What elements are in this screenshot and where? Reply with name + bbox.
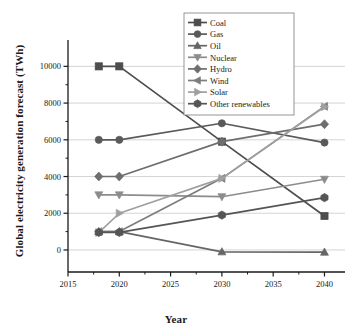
x-tick-label: 2020 — [111, 279, 128, 289]
legend-item-label: Other renewables — [210, 99, 270, 109]
data-point-marker — [218, 211, 225, 219]
y-tick-label: 10000 — [40, 61, 61, 71]
x-tick-label: 2035 — [265, 279, 282, 289]
chart-container: 0200040006000800010000201520202025203020… — [0, 0, 352, 328]
series-wind — [95, 102, 328, 235]
data-point-marker — [218, 120, 225, 127]
data-point-marker — [95, 136, 102, 143]
line-chart: 0200040006000800010000201520202025203020… — [0, 0, 352, 328]
legend-item-label: Nuclear — [210, 53, 237, 63]
x-tick-label: 2030 — [213, 279, 230, 289]
y-tick-label: 0 — [57, 245, 61, 255]
data-point-marker — [321, 139, 328, 146]
legend-item-label: Gas — [210, 29, 223, 39]
y-tick-label: 6000 — [44, 135, 61, 145]
legend-marker-icon — [194, 19, 201, 26]
x-tick-label: 2025 — [162, 279, 179, 289]
x-axis-title: Year — [0, 313, 352, 325]
data-point-marker — [116, 209, 123, 217]
data-point-marker — [320, 120, 328, 129]
data-point-marker — [115, 172, 123, 181]
series-oil — [95, 227, 329, 255]
series-line — [99, 198, 325, 233]
legend-item-label: Coal — [210, 18, 227, 28]
chart-legend: CoalGasOilNuclearHydroWindSolarOther ren… — [184, 13, 294, 115]
data-point-marker — [116, 136, 123, 143]
data-point-marker — [321, 212, 328, 219]
x-tick-label: 2040 — [316, 279, 333, 289]
legend-item-label: Wind — [210, 76, 229, 86]
series-nuclear — [95, 176, 329, 201]
data-point-marker — [95, 228, 102, 236]
data-point-marker — [95, 172, 103, 181]
y-tick-label: 2000 — [44, 208, 61, 218]
legend-marker-icon — [194, 100, 201, 108]
data-point-marker — [321, 194, 328, 202]
y-tick-label: 4000 — [44, 172, 61, 182]
x-tick-label: 2015 — [60, 279, 77, 289]
series-line — [99, 124, 325, 176]
legend-item-label: Oil — [210, 41, 222, 51]
legend-item-label: Solar — [210, 87, 228, 97]
legend-marker-icon — [194, 31, 201, 38]
y-axis-title: Global electricity generation forecast (… — [13, 26, 25, 276]
series-other-renewables — [95, 194, 328, 237]
data-point-marker — [116, 63, 123, 70]
data-point-marker — [116, 228, 123, 236]
series-gas — [95, 120, 328, 146]
y-tick-label: 8000 — [44, 98, 61, 108]
series-line — [99, 232, 325, 253]
data-point-marker — [95, 63, 102, 70]
legend-item-label: Hydro — [210, 64, 232, 74]
